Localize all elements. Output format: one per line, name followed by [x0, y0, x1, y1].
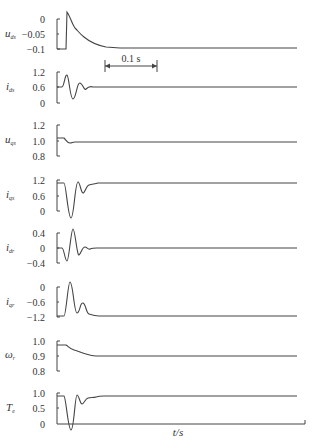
- ylabel-u-qs: uqs: [5, 133, 17, 146]
- x-axis-label: t/s: [173, 426, 183, 438]
- tick: 0: [40, 419, 45, 430]
- y-axis-bracket: [57, 287, 60, 317]
- curve-u-qs: [57, 138, 297, 143]
- y-axis-bracket: [57, 180, 60, 211]
- ylabel-i-qs: iqs: [6, 188, 15, 201]
- tick: −0.6: [27, 297, 45, 308]
- subplot-u-qs: uqs 1.2 1.0 0.8: [5, 120, 297, 162]
- subplot-i-dr: idr 0.4 0 −0.4: [6, 228, 297, 269]
- curve-i-qr: [57, 282, 297, 316]
- tick: 0: [40, 14, 45, 25]
- tick: 1.0: [33, 336, 46, 347]
- tick: 1.2: [33, 175, 46, 186]
- scale-bar-label: 0.1 s: [122, 53, 141, 64]
- ylabel-u-ds: uds: [5, 27, 17, 40]
- stacked-line-chart: uds 0 −0.05 −0.1 0.1 s ids 1.2 0.6 0 uqs…: [0, 0, 315, 448]
- y-axis-bracket: [57, 19, 60, 49]
- tick: 1.2: [33, 67, 46, 78]
- tick: 0.8: [33, 151, 46, 162]
- curve-t-e: [57, 395, 297, 430]
- scale-bar: 0.1 s: [105, 53, 157, 72]
- tick: 1.0: [33, 388, 46, 399]
- ylabel-i-dr: idr: [6, 241, 15, 254]
- tick: −0.4: [27, 258, 45, 269]
- subplot-omega-r: ωr 1.0 0.9 0.8: [5, 336, 297, 377]
- tick: −0.1: [27, 44, 45, 55]
- curve-i-dr: [57, 229, 297, 261]
- ylabel-i-ds: ids: [6, 80, 15, 93]
- y-axis-bracket: [57, 393, 60, 424]
- subplot-i-qr: iqr 0 −0.6 −1.2: [6, 282, 297, 323]
- subplot-i-ds: ids 1.2 0.6 0: [6, 67, 297, 109]
- tick: 1.2: [33, 120, 46, 131]
- x-axis: [57, 420, 305, 424]
- tick: 0: [40, 98, 45, 109]
- tick: 1.0: [33, 136, 46, 147]
- curve-u-ds: [57, 12, 297, 49]
- tick: −1.2: [27, 312, 45, 323]
- tick: 0.5: [33, 403, 46, 414]
- tick: 0.6: [33, 82, 46, 93]
- ylabel-omega-r: ωr: [5, 348, 16, 361]
- subplot-u-ds: uds 0 −0.05 −0.1: [5, 12, 297, 55]
- curve-i-ds: [57, 75, 297, 99]
- tick: −0.05: [22, 29, 45, 40]
- ylabel-i-qr: iqr: [6, 295, 15, 308]
- curve-omega-r: [57, 345, 297, 356]
- tick: 0: [40, 206, 45, 217]
- tick: 0.6: [33, 191, 46, 202]
- y-axis-bracket: [57, 125, 60, 156]
- subplot-t-e: Te 1.0 0.5 0 t/s: [6, 388, 305, 438]
- curve-i-qs: [57, 182, 297, 218]
- tick: 0.9: [33, 351, 46, 362]
- subplot-i-qs: iqs 1.2 0.6 0: [6, 175, 297, 218]
- tick: 0.8: [33, 366, 46, 377]
- tick: 0: [40, 282, 45, 293]
- tick: 0: [40, 243, 45, 254]
- ylabel-t-e: Te: [6, 401, 15, 414]
- tick: 0.4: [33, 228, 46, 239]
